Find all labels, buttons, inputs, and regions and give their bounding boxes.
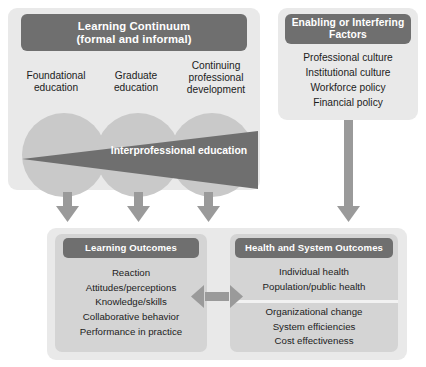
interprofessional-education-label: Interprofessional education [104,145,254,156]
list-item: Workforce policy [284,80,412,95]
learning-continuum-title-line2: (formal and informal) [76,33,191,46]
column-label-continuing: Continuing professional development [176,60,256,96]
health-outcomes-group-health: Individual health Population/public heal… [232,265,396,294]
continuing-line2: professional [176,72,256,84]
down-arrow-icon-factors [337,120,360,222]
list-item: Professional culture [284,50,412,65]
foundational-line1: Foundational [18,70,94,82]
factors-title-line2: Factors [292,29,405,41]
health-outcomes-divider [230,300,398,303]
learning-outcomes-list: Reaction Attitudes/perceptions Knowledge… [57,266,205,340]
health-outcomes-group-system: Organizational change System efficiencie… [232,305,396,349]
learning-continuum-panel: Learning Continuum (formal and informal)… [8,8,260,190]
health-system-outcomes-header: Health and System Outcomes [235,238,393,258]
column-label-foundational: Foundational education [18,70,94,94]
list-item: Knowledge/skills [57,295,205,310]
column-label-graduate: Graduate education [102,70,170,94]
enabling-factors-panel: Enabling or Interfering Factors Professi… [278,8,418,120]
foundational-line2: education [18,82,94,94]
graduate-line1: Graduate [102,70,170,82]
continuing-line3: development [176,84,256,96]
learning-outcomes-header: Learning Outcomes [63,238,199,258]
list-item: Collaborative behavior [57,310,205,325]
list-item: System efficiencies [232,320,396,335]
learning-continuum-title-line1: Learning Continuum [76,20,191,33]
list-item: Financial policy [284,95,412,110]
list-item: Cost effectiveness [232,334,396,349]
factors-title-line1: Enabling or Interfering [292,17,405,29]
list-item: Individual health [232,265,396,280]
enabling-factors-list: Professional culture Institutional cultu… [284,50,412,110]
list-item: Institutional culture [284,65,412,80]
outcomes-panel: Learning Outcomes Reaction Attitudes/per… [47,228,407,360]
enabling-factors-header: Enabling or Interfering Factors [285,14,411,44]
list-item: Reaction [57,266,205,281]
health-system-outcomes-box: Health and System Outcomes Individual he… [230,234,398,352]
graduate-line2: education [102,82,170,94]
list-item: Organizational change [232,305,396,320]
learning-outcomes-box: Learning Outcomes Reaction Attitudes/per… [55,234,207,352]
diagram-canvas: Learning Continuum (formal and informal)… [0,0,426,367]
list-item: Attitudes/perceptions [57,281,205,296]
continuing-line1: Continuing [176,60,256,72]
learning-continuum-header: Learning Continuum (formal and informal) [21,14,247,51]
list-item: Population/public health [232,280,396,295]
list-item: Performance in practice [57,325,205,340]
